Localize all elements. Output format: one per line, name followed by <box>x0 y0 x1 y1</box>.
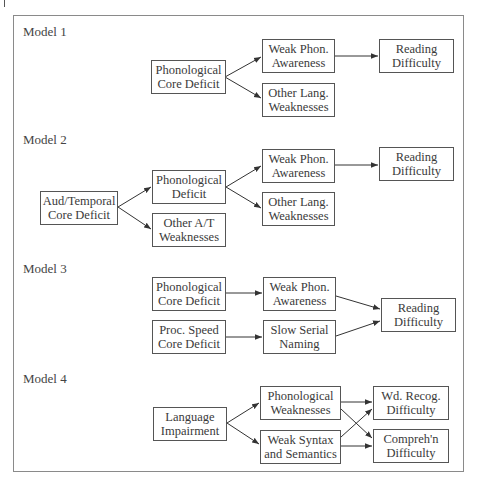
box-text-line: and Semantics <box>264 447 337 461</box>
box-text-line: Core Deficit <box>43 208 116 222</box>
box-text-line: Core Deficit <box>156 294 222 308</box>
box-weak-syntax-and-semantics: Weak Syntaxand Semantics <box>260 430 341 464</box>
box-text-line: Phonological <box>156 173 222 187</box>
box-reading-difficulty: ReadingDifficulty <box>381 298 456 332</box>
box-text-line: Weaknesses <box>268 100 328 114</box>
box-text-line: Phonological <box>268 389 334 403</box>
box-text-line: Weaknesses <box>159 230 219 244</box>
box-text-line: Slow Serial <box>271 323 329 337</box>
box-text-line: Weak Phon. <box>269 280 329 294</box>
box-text-line: Difficulty <box>392 56 441 70</box>
box-text-line: Other Lang. <box>268 86 328 100</box>
margin-tick-mark <box>4 0 5 7</box>
box-text-line: Awareness <box>268 56 328 70</box>
box-text-line: Awareness <box>268 166 328 180</box>
box-proc-speed-core-deficit: Proc. SpeedCore Deficit <box>152 320 226 354</box>
box-text-line: Language <box>161 410 219 424</box>
box-text-line: Weaknesses <box>268 209 328 223</box>
box-text-line: Weak Phon. <box>268 152 328 166</box>
box-weak-phon-awareness: Weak Phon.Awareness <box>262 149 335 183</box>
box-text-line: Naming <box>271 337 329 351</box>
box-text-line: Weak Syntax <box>264 433 337 447</box>
box-weak-phon-awareness: Weak Phon.Awareness <box>262 39 335 73</box>
box-text-line: Reading <box>394 301 443 315</box>
box-phonological-weaknesses: PhonologicalWeaknesses <box>260 386 341 420</box>
box-other-lang-weaknesses: Other Lang.Weaknesses <box>262 83 335 117</box>
box-other-lang-weaknesses: Other Lang.Weaknesses <box>262 192 335 226</box>
box-text-line: Deficit <box>156 187 222 201</box>
box-text-line: Compreh'n <box>383 432 438 446</box>
box-text-line: Wd. Recog. <box>381 389 440 403</box>
box-slow-serial-naming: Slow SerialNaming <box>263 320 336 354</box>
box-text-line: Impairment <box>161 424 219 438</box>
model-3-label: Model 3 <box>23 261 67 277</box>
box-text-line: Phonological <box>156 280 222 294</box>
model-1-label: Model 1 <box>23 24 67 40</box>
box-aud-temporal-core-deficit: Aud/TemporalCore Deficit <box>40 191 118 225</box>
model-4-label: Model 4 <box>23 371 67 387</box>
model-2-label: Model 2 <box>23 132 67 148</box>
box-phonological-deficit: PhonologicalDeficit <box>152 170 226 204</box>
box-phonological-core-deficit: PhonologicalCore Deficit <box>152 277 226 311</box>
box-text-line: Reading <box>392 150 441 164</box>
box-text-line: Phonological <box>156 63 222 77</box>
box-text-line: Weak Phon. <box>268 42 328 56</box>
box-text-line: Difficulty <box>394 315 443 329</box>
box-text-line: Other A/T <box>159 216 219 230</box>
box-text-line: Proc. Speed <box>158 323 220 337</box>
box-text-line: Awareness <box>269 294 329 308</box>
box-phonological-core-deficit: PhonologicalCore Deficit <box>151 60 226 94</box>
box-wd-recog-difficulty: Wd. Recog.Difficulty <box>373 386 449 420</box>
box-text-line: Other Lang. <box>268 195 328 209</box>
box-other-at-weaknesses: Other A/TWeaknesses <box>152 213 226 247</box>
box-language-impairment: LanguageImpairment <box>153 407 227 441</box>
box-text-line: Difficulty <box>381 403 440 417</box>
box-text-line: Aud/Temporal <box>43 194 116 208</box>
box-text-line: Difficulty <box>392 164 441 178</box>
box-text-line: Core Deficit <box>156 77 222 91</box>
box-reading-difficulty: ReadingDifficulty <box>379 147 454 181</box>
box-text-line: Weaknesses <box>268 403 334 417</box>
box-reading-difficulty: ReadingDifficulty <box>379 39 454 73</box>
box-text-line: Reading <box>392 42 441 56</box>
box-compreh-n-difficulty: Compreh'nDifficulty <box>373 429 449 463</box>
box-text-line: Difficulty <box>383 446 438 460</box>
box-weak-phon-awareness: Weak Phon.Awareness <box>263 277 336 311</box>
box-text-line: Core Deficit <box>158 337 220 351</box>
